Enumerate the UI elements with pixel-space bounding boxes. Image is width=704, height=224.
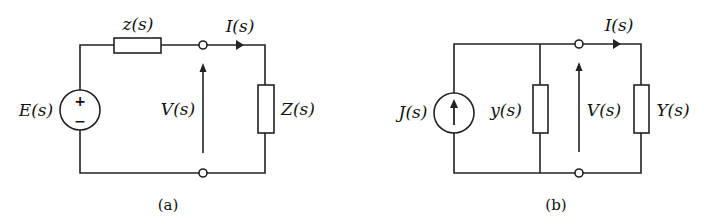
label-current-a: I(s) [225,16,255,36]
terminal-b-top [575,40,583,48]
current-source-icon [434,93,474,133]
current-arrow-icon [613,39,621,49]
plus-sign: + [74,93,86,109]
label-voltage-b: V(s) [587,100,621,120]
label-source-E: E(s) [18,100,53,120]
label-load-Y: Y(s) [656,100,689,120]
caption-a: (a) [158,196,179,214]
label-source-J: J(s) [396,102,428,122]
wire-b-left-bottom [454,133,575,173]
circuit-a: + − z(s) I(s) E(s) V(s) Z(s) (a) [18,14,315,214]
label-voltage-a: V(s) [161,99,195,119]
wire-b-left-top [454,44,575,93]
wire-a-left-bottom [80,130,199,173]
series-impedance-z [114,38,161,53]
label-admittance-y: y(s) [489,100,522,120]
load-impedance-Z [258,85,274,133]
shunt-admittance-y [533,85,548,133]
label-current-b: I(s) [604,15,634,35]
current-arrow-icon [236,40,244,50]
label-z-small: z(s) [122,14,154,34]
caption-b: (b) [545,196,566,214]
voltage-source-icon: + − [60,90,100,130]
circuit-figure: + − z(s) I(s) E(s) V(s) Z(s) (a) [0,0,704,224]
terminal-a-top [199,41,207,49]
circuit-b: I(s) J(s) y(s) V(s) Y(s) (b) [396,15,690,214]
voltage-arrowhead-icon [576,62,583,71]
terminal-a-bottom [199,169,207,177]
load-admittance-Y [634,85,649,133]
voltage-arrowhead-icon [200,63,207,72]
wire-a-left-top [80,45,114,90]
terminal-b-bottom [575,169,583,177]
wire-b-bottom-right [583,133,641,173]
wire-b-top-right [583,44,641,85]
wire-a-bottom-right [207,133,265,173]
minus-sign: − [74,113,86,129]
label-load-Z: Z(s) [280,99,315,119]
wire-a-top-right [207,45,265,85]
